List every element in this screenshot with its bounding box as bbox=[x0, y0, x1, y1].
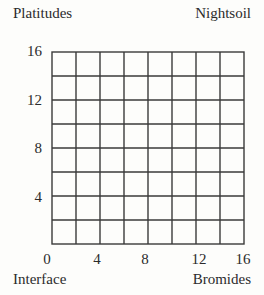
x-tick-0: 0 bbox=[43, 251, 51, 267]
y-tick-12: 12 bbox=[27, 92, 42, 108]
x-tick-12: 12 bbox=[192, 251, 207, 267]
y-tick-4: 4 bbox=[35, 189, 43, 205]
y-tick-16: 16 bbox=[27, 43, 42, 59]
x-tick-16: 16 bbox=[236, 251, 251, 267]
grid-lines bbox=[52, 52, 244, 244]
x-tick-4: 4 bbox=[93, 251, 101, 267]
corner-label-bottom-left: Interface bbox=[13, 271, 66, 287]
y-tick-8: 8 bbox=[35, 140, 43, 156]
x-tick-8: 8 bbox=[141, 251, 149, 267]
corner-label-bottom-right: Bromides bbox=[193, 271, 251, 287]
